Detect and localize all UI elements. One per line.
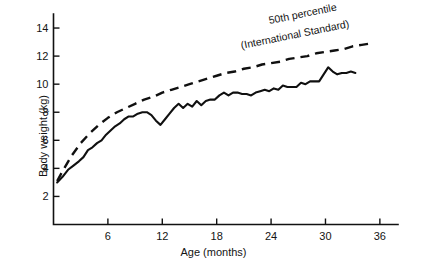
y-tick-label: 14 (36, 22, 48, 34)
y-tick-label: 12 (36, 50, 48, 62)
x-tick-label: 36 (374, 230, 386, 242)
x-tick-label: 24 (265, 230, 277, 242)
y-tick-label: 10 (36, 78, 48, 90)
observed-weight-line (57, 67, 355, 182)
y-axis-title: Body weight (kg) (37, 95, 49, 177)
y-axis-ticks (54, 28, 60, 196)
y-tick-label: 2 (42, 190, 48, 202)
x-tick-label: 12 (156, 230, 168, 242)
x-tick-label: 30 (319, 230, 331, 242)
body-weight-growth-chart: 2468101214 61218243036 Body weight (kg) … (0, 0, 427, 272)
x-tick-label: 18 (211, 230, 223, 242)
x-tick-label: 6 (105, 230, 111, 242)
x-axis-ticks (108, 219, 380, 225)
percentile-reference-line (57, 43, 371, 181)
x-axis-title: Age (months) (0, 246, 427, 258)
